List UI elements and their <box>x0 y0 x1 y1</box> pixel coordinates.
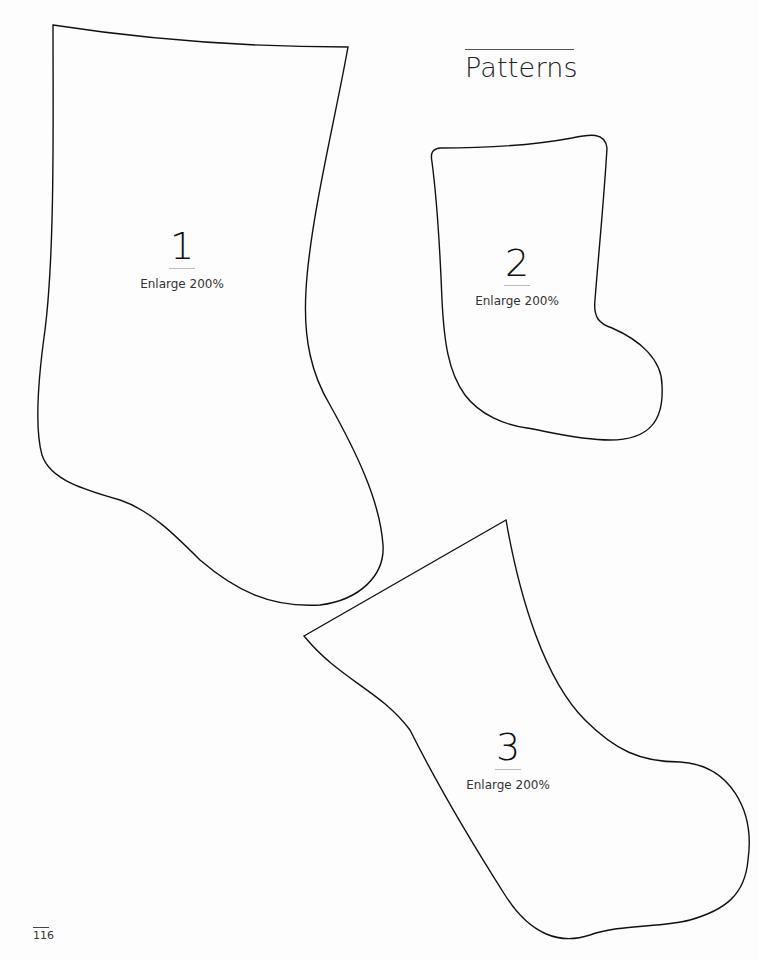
stocking-1-outline <box>38 25 383 605</box>
pattern-2-rule <box>504 285 530 286</box>
pattern-1-instruction: Enlarge 200% <box>112 277 252 291</box>
pattern-1-number: 1 <box>112 226 252 266</box>
pattern-3-number: 3 <box>438 727 578 767</box>
pattern-page: Patterns 1 Enlarge 200% 2 Enlarge 200% 3… <box>0 0 759 960</box>
pattern-1-rule <box>169 268 195 269</box>
page-number-rule <box>33 927 49 928</box>
pattern-2-label: 2 Enlarge 200% <box>447 243 587 308</box>
pattern-1-label: 1 Enlarge 200% <box>112 226 252 291</box>
page-title: Patterns <box>465 52 574 83</box>
stocking-outlines <box>0 0 759 960</box>
page-footer: 116 <box>33 927 54 942</box>
page-header: Patterns <box>465 49 574 83</box>
pattern-3-rule <box>495 769 521 770</box>
pattern-3-instruction: Enlarge 200% <box>438 778 578 792</box>
pattern-2-instruction: Enlarge 200% <box>447 294 587 308</box>
pattern-2-number: 2 <box>447 243 587 283</box>
pattern-3-label: 3 Enlarge 200% <box>438 727 578 792</box>
page-number: 116 <box>33 929 54 942</box>
title-rule <box>465 49 574 50</box>
